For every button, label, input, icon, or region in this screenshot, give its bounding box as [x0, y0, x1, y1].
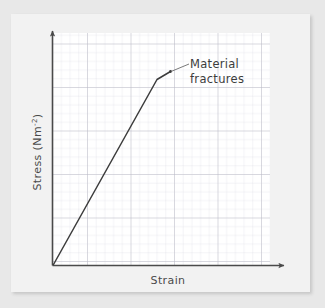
annotation-material-line1: Material	[190, 57, 239, 71]
stress-strain-chart: Material fractures Stress (Nm-2) Strain	[0, 0, 325, 308]
figure-root: Material fractures Stress (Nm-2) Strain	[0, 0, 325, 308]
y-axis-label-main: Stress (Nm	[31, 126, 44, 191]
svg-text:Stress (Nm-2): Stress (Nm-2)	[31, 113, 44, 190]
y-axis-label-sup: -2	[31, 118, 39, 126]
y-axis-label-group: Stress (Nm-2)	[31, 113, 44, 190]
x-axis-label: Strain	[151, 274, 186, 287]
y-axis-label-close: )	[31, 113, 44, 118]
annotation-material-line2: fractures	[190, 72, 244, 86]
